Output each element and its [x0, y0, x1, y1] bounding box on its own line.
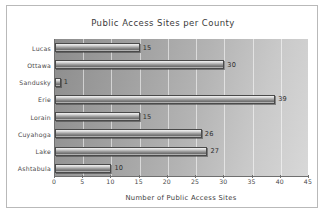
bar[interactable] — [55, 164, 111, 173]
bar-row: 10 — [55, 164, 308, 173]
chart-page: Public Access Sites per County LucasOtta… — [0, 0, 324, 215]
chart-frame: Public Access Sites per County LucasOtta… — [6, 5, 318, 208]
bar-row: 27 — [55, 147, 308, 156]
bar-row: 39 — [55, 95, 308, 104]
bar-row: 30 — [55, 60, 308, 69]
category-label-cuyahoga: Cuyahoga — [18, 130, 51, 137]
plot-area: 153013915262710 — [54, 39, 308, 177]
x-tick-label: 5 — [80, 178, 84, 185]
bar-row: 15 — [55, 43, 308, 52]
bar-value-label: 15 — [143, 113, 152, 121]
x-tick-label: 0 — [52, 178, 56, 185]
bar-value-label: 39 — [278, 95, 287, 103]
bar-row: 26 — [55, 129, 308, 138]
bar-row: 1 — [55, 78, 308, 87]
category-label-lucas: Lucas — [32, 44, 51, 51]
bar[interactable] — [55, 43, 140, 52]
bar-value-label: 10 — [114, 164, 123, 172]
bar[interactable] — [55, 147, 207, 156]
chart-title: Public Access Sites per County — [7, 18, 319, 28]
bar-value-label: 26 — [205, 130, 214, 138]
x-tick-label: 15 — [135, 178, 143, 185]
category-label-lorain: Lorain — [30, 113, 51, 120]
category-label-ashtabula: Ashtabula — [18, 165, 51, 172]
x-axis-label: Number of Public Access Sites — [54, 194, 308, 202]
x-tick-label: 45 — [304, 178, 312, 185]
bar[interactable] — [55, 78, 61, 87]
x-tick-label: 30 — [219, 178, 227, 185]
bar[interactable] — [55, 112, 140, 121]
category-label-sandusky: Sandusky — [19, 79, 51, 86]
x-tick-label: 20 — [163, 178, 171, 185]
category-label-erie: Erie — [38, 96, 51, 103]
x-tick-label: 40 — [276, 178, 284, 185]
bar-value-label: 27 — [210, 147, 219, 155]
bar-row: 15 — [55, 112, 308, 121]
category-axis: LucasOttawaSanduskyErieLorainCuyahogaLak… — [7, 39, 51, 177]
x-axis: 051015202530354045 — [54, 178, 308, 190]
bar-value-label: 30 — [227, 61, 236, 69]
x-tick-label: 35 — [247, 178, 255, 185]
gridline — [309, 39, 310, 176]
bar-value-label: 15 — [143, 44, 152, 52]
x-tick-label: 10 — [106, 178, 114, 185]
bar[interactable] — [55, 129, 202, 138]
x-tick-label: 25 — [191, 178, 199, 185]
category-label-ottawa: Ottawa — [27, 61, 51, 68]
bar-value-label: 1 — [64, 78, 68, 86]
category-label-lake: Lake — [36, 148, 51, 155]
bar[interactable] — [55, 60, 224, 69]
bar[interactable] — [55, 95, 275, 104]
